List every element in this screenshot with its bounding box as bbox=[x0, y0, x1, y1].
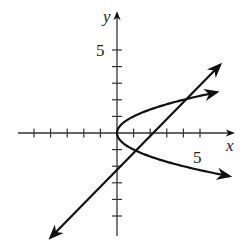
x-tick-label-5: 5 bbox=[193, 149, 202, 166]
graph-canvas bbox=[0, 0, 248, 244]
x-axis-label: x bbox=[226, 137, 234, 154]
axes bbox=[18, 13, 233, 236]
y-tick-label-5: 5 bbox=[96, 42, 105, 59]
y-axis-label: y bbox=[103, 8, 111, 25]
curves bbox=[51, 65, 230, 238]
